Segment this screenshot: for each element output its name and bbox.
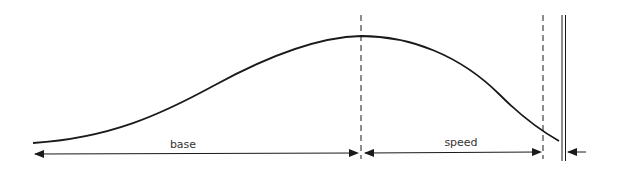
speed-arrow [365,152,540,153]
speed-label: speed [444,136,477,149]
base-arrow [35,153,357,154]
bell-curve [33,36,559,143]
diagram-canvas: base speed [0,0,618,172]
diagram-svg: base speed [0,0,618,172]
base-label: base [170,138,196,151]
